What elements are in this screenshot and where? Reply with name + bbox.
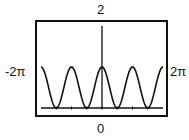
- plot-area: [0, 0, 189, 140]
